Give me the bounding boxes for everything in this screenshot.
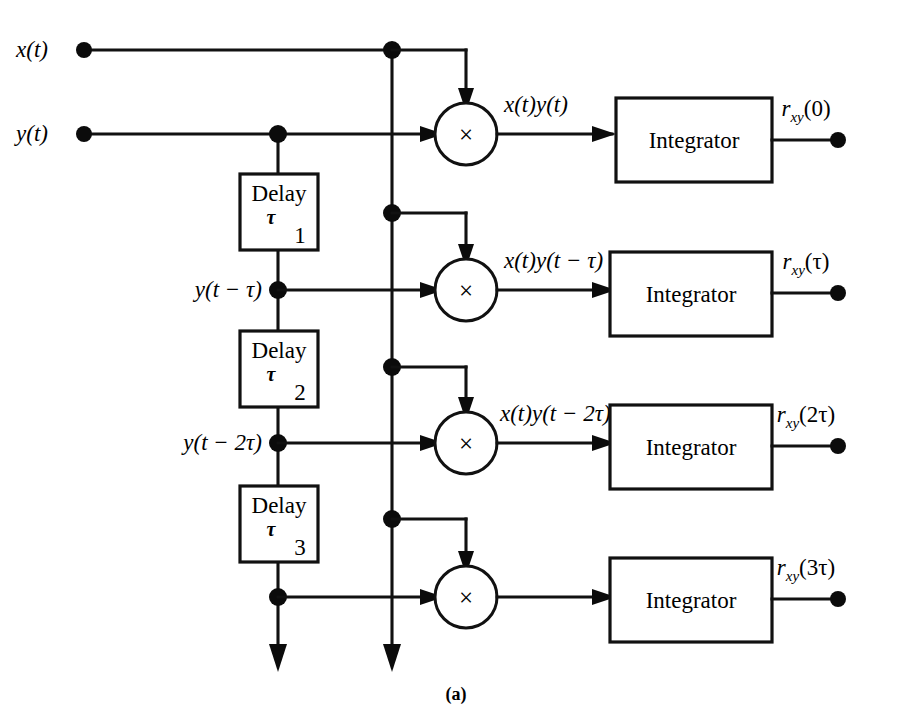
integrator-3-label: Integrator — [646, 435, 737, 460]
output-terminal-4-dot[interactable] — [830, 591, 846, 607]
input-terminal-y-dot[interactable] — [76, 126, 92, 142]
junction-y-tap0 — [269, 125, 287, 143]
multiplier-2-symbol: × — [459, 277, 473, 304]
figure-canvas: x(t) y(t) — [0, 0, 912, 724]
output-label-3: rxy(2τ) — [777, 402, 835, 431]
x-signal-bus — [84, 50, 392, 648]
delay-block-2[interactable]: Delay τ 2 — [240, 331, 318, 407]
figure-caption: (a) — [446, 684, 467, 705]
delay-block-2-tau: τ — [267, 363, 277, 385]
multiplier-4-symbol: × — [459, 584, 473, 611]
delay-block-2-index: 2 — [294, 380, 306, 405]
input-label-y: y(t) — [14, 121, 48, 146]
input-terminal-x-dot[interactable] — [76, 42, 92, 58]
output-label-2: rxy(τ) — [783, 249, 830, 278]
input-label-x: x(t) — [15, 37, 48, 62]
arrow-x-bus-continues — [383, 644, 401, 672]
product-wire-row3 — [497, 435, 616, 451]
output-terminal-2-dot[interactable] — [830, 285, 846, 301]
integrator-4-label: Integrator — [646, 588, 737, 613]
product-label-1: x(t)y(t) — [503, 92, 568, 117]
product-label-2: x(t)y(t − τ) — [503, 248, 603, 273]
output-terminal-3-dot[interactable] — [830, 438, 846, 454]
delay-block-1-index: 1 — [294, 223, 306, 248]
multiplier-4[interactable]: × — [435, 566, 497, 628]
delay-block-1-label: Delay — [252, 181, 307, 206]
product-wire-row4 — [497, 589, 616, 605]
multiplier-2[interactable]: × — [435, 259, 497, 321]
multiplier-3[interactable]: × — [435, 412, 497, 474]
output-label-1: rxy(0) — [781, 96, 830, 125]
integrator-2-label: Integrator — [646, 282, 737, 307]
delay-block-1[interactable]: Delay τ 1 — [240, 174, 318, 250]
integrator-block-1[interactable]: Integrator — [616, 98, 772, 182]
delay-block-2-label: Delay — [252, 338, 307, 363]
delay-block-3-label: Delay — [252, 493, 307, 518]
delay-block-3-index: 3 — [294, 535, 306, 560]
integrator-block-3[interactable]: Integrator — [610, 405, 772, 489]
product-wire-row1 — [497, 126, 616, 142]
tap-label-1: y(t − τ) — [193, 277, 262, 302]
tap-label-2: y(t − 2τ) — [181, 430, 262, 455]
output-label-4: rxy(3τ) — [777, 555, 835, 584]
arrow-into-integrator-1 — [592, 126, 616, 142]
tap-feed-row2 — [278, 282, 448, 298]
product-label-3: x(t)y(t − 2τ) — [499, 401, 611, 426]
multiplier-1-symbol: × — [459, 121, 473, 148]
tap-feed-row3 — [278, 435, 448, 451]
integrator-block-2[interactable]: Integrator — [610, 252, 772, 336]
arrow-delay-chain-continues — [269, 644, 287, 672]
integrator-block-4[interactable]: Integrator — [610, 558, 772, 642]
product-wire-row2 — [497, 282, 616, 298]
delay-block-1-tau: τ — [267, 206, 277, 228]
block-diagram-svg: x(t) y(t) — [0, 0, 912, 724]
tap-feed-row4 — [278, 589, 448, 605]
delay-block-3[interactable]: Delay τ 3 — [240, 486, 318, 562]
integrator-1-label: Integrator — [649, 128, 740, 153]
multiplier-1[interactable]: × — [435, 103, 497, 165]
output-terminal-1-dot[interactable] — [830, 132, 846, 148]
delay-block-3-tau: τ — [267, 518, 277, 540]
multiplier-3-symbol: × — [459, 430, 473, 457]
